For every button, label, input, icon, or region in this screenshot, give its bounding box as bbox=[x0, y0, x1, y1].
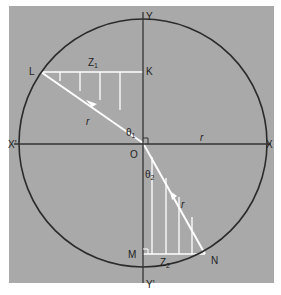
label-K: K bbox=[146, 66, 153, 77]
label-L: L bbox=[29, 66, 35, 77]
label-N: N bbox=[211, 255, 218, 266]
label-O: O bbox=[130, 149, 138, 160]
label-Y-prime: Y' bbox=[146, 279, 155, 290]
label-Y: Y bbox=[146, 11, 153, 22]
label-X-prime: X' bbox=[8, 139, 17, 150]
label-X: X bbox=[266, 139, 273, 150]
circle-triangle-diagram: Y Y' X X' O L K M N Z1 Z2 r r r θ1 θ2 bbox=[0, 0, 281, 295]
label-M: M bbox=[128, 249, 136, 260]
